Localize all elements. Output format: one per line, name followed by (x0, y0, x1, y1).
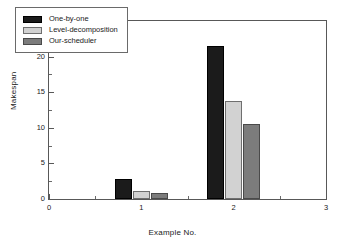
bar (133, 191, 150, 199)
y-axis-tick: 0 (49, 199, 54, 200)
legend-item: One-by-one (23, 14, 118, 24)
legend-swatch-one-by-one (23, 16, 42, 23)
y-axis-tick: 5 (49, 163, 54, 164)
x-axis-tick-label: 0 (47, 204, 51, 212)
x-axis-tick: 0 (49, 194, 50, 199)
y-axis-tick-label: 10 (37, 124, 45, 132)
bar (151, 193, 168, 199)
bar (115, 179, 132, 199)
x-axis-minor-tick (280, 196, 281, 199)
legend-item: Level-decomposition (23, 25, 118, 35)
x-axis-tick: 3 (326, 194, 327, 199)
x-axis-minor-tick (188, 196, 189, 199)
y-axis-minor-tick (49, 110, 52, 111)
bar (225, 101, 242, 199)
legend-label: One-by-one (49, 15, 89, 23)
y-axis-tick-label: 0 (41, 195, 45, 203)
x-axis-tick-label: 1 (139, 204, 143, 212)
chart-legend: One-by-one Level-decomposition Our-sched… (15, 7, 128, 53)
legend-label: Our-scheduler (49, 37, 97, 45)
legend-swatch-level-decomposition (23, 27, 42, 34)
y-axis-minor-tick (49, 181, 52, 182)
y-axis-tick: 15 (49, 92, 54, 93)
bar (207, 46, 224, 199)
y-axis-tick: 10 (49, 128, 54, 129)
bar-chart-figure: 05101520250123 Makespan Example No. One-… (0, 0, 345, 252)
legend-label: Level-decomposition (49, 26, 118, 34)
y-axis-tick-label: 15 (37, 88, 45, 96)
x-axis-title: Example No. (0, 228, 345, 237)
x-axis-minor-tick (95, 196, 96, 199)
y-axis-tick: 20 (49, 57, 54, 58)
legend-swatch-our-scheduler (23, 38, 42, 45)
bar (243, 124, 260, 199)
y-axis-title: Makespan (9, 71, 18, 110)
y-axis-tick-label: 5 (41, 160, 45, 168)
y-axis-tick-label: 20 (37, 53, 45, 61)
x-axis-tick-label: 2 (232, 204, 236, 212)
y-axis-minor-tick (49, 146, 52, 147)
x-axis-tick-label: 3 (324, 204, 328, 212)
legend-item: Our-scheduler (23, 36, 118, 46)
y-axis-minor-tick (49, 74, 52, 75)
